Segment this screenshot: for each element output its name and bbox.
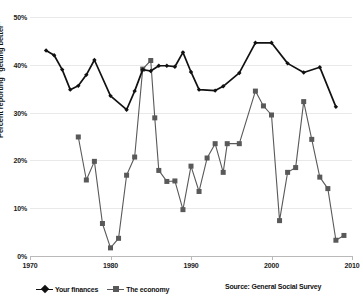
square-marker-icon [107, 285, 124, 294]
chart-container: 0%10%20%30%40%50% Percent reporting "get… [0, 0, 363, 301]
data-point-marker [180, 207, 185, 212]
y-tick-label: 50% [14, 14, 27, 21]
data-point-marker [333, 238, 338, 243]
legend-item[interactable]: Your finances [36, 285, 98, 294]
data-point-marker [197, 189, 202, 194]
data-point-marker [317, 175, 322, 180]
series-your-finances [44, 41, 338, 112]
y-tick-label: 30% [14, 109, 27, 116]
data-point-marker [156, 168, 161, 173]
data-point-marker [261, 103, 266, 108]
x-tick-label: 1990 [184, 262, 199, 269]
data-point-marker [341, 233, 346, 238]
data-point-marker [108, 245, 113, 250]
data-point-marker [164, 179, 169, 184]
x-tick-mark [191, 256, 192, 260]
data-point-marker [269, 112, 274, 117]
x-tick-label: 2010 [345, 262, 360, 269]
x-tick-label: 2000 [264, 262, 279, 269]
data-point-marker [148, 58, 153, 63]
data-point-marker [152, 115, 157, 120]
data-point-marker [293, 165, 298, 170]
x-tick-mark [272, 256, 273, 260]
data-point-marker [84, 177, 89, 182]
data-point-marker [132, 155, 137, 160]
diamond-marker-icon [36, 285, 53, 294]
data-point-marker [205, 156, 210, 161]
data-point-marker [189, 164, 194, 169]
data-point-marker [100, 221, 105, 226]
chart-legend: Your financesThe economy [36, 283, 169, 295]
x-tick-mark [111, 256, 112, 260]
data-point-marker [325, 186, 330, 191]
data-point-marker [237, 141, 242, 146]
data-point-marker [301, 99, 306, 104]
y-tick-label: 40% [14, 61, 27, 68]
data-point-marker [165, 64, 169, 68]
data-point-marker [172, 178, 177, 183]
x-tick-mark [30, 256, 31, 260]
y-axis-title: Percent reporting "getting better" [0, 22, 5, 138]
data-point-marker [124, 173, 129, 178]
data-point-marker [116, 236, 121, 241]
legend-label: The economy [126, 286, 169, 293]
x-tick-mark [352, 256, 353, 260]
y-tick-label: 20% [14, 157, 27, 164]
legend-item[interactable]: The economy [107, 285, 169, 294]
y-tick-label: 10% [14, 205, 27, 212]
data-point-marker [309, 137, 314, 142]
data-point-marker [285, 170, 290, 175]
y-tick-label: 0% [17, 253, 27, 260]
x-tick-label: 1980 [103, 262, 118, 269]
data-point-marker [225, 141, 230, 146]
data-point-marker [253, 89, 258, 94]
source-note: Source: General Social Survey [225, 283, 321, 290]
data-point-marker [277, 218, 282, 223]
legend-label: Your finances [55, 286, 98, 293]
data-point-marker [221, 170, 226, 175]
data-point-marker [76, 134, 81, 139]
series-layer [30, 17, 352, 256]
data-point-marker [92, 159, 97, 164]
x-tick-label: 1970 [23, 262, 38, 269]
plot-area [30, 17, 352, 256]
x-axis: 19701980199020002010 [30, 256, 352, 278]
series-the-economy [76, 58, 347, 250]
data-point-marker [213, 141, 218, 146]
